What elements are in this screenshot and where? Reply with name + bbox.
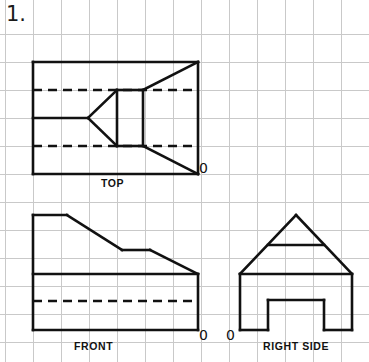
view-right-side [240,215,352,330]
origin-marker-front: 0 [199,327,208,343]
view-top [33,62,198,174]
object-line-diag-upper-right [143,62,198,90]
object-line-diag-lower-right [143,146,198,174]
view-label-top: TOP [101,177,124,189]
problem-number: 1. [6,2,26,26]
object-line-slope-lower [150,250,198,274]
object-line-vee-lower [88,118,117,146]
view-label-right-side: RIGHT SIDE [263,340,329,352]
worksheet-page: 1. TOP FRONT RIGHT SIDE 0 0 0 [0,0,369,362]
object-line-vee-upper [88,90,117,118]
object-line-slope-upper [67,215,122,250]
orthographic-views-drawing [0,0,369,362]
origin-marker-right-side: 0 [226,327,235,343]
view-label-front: FRONT [74,340,113,352]
origin-marker-top: 0 [199,160,208,176]
view-front [33,215,198,330]
